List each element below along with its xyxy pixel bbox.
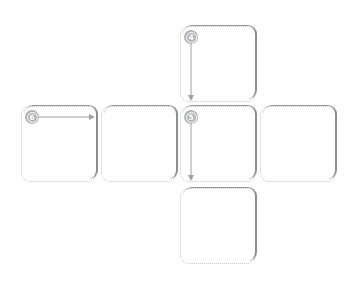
step-badge-6: 6 xyxy=(26,111,38,123)
cube-face-center-left xyxy=(101,106,177,182)
arrow-down-icon xyxy=(186,43,196,103)
step-badge-4: 4 xyxy=(185,31,197,43)
cube-face-center: 5 xyxy=(180,106,256,182)
arrow-down-icon xyxy=(186,123,196,183)
step-badge-5: 5 xyxy=(185,111,197,123)
arrow-right-icon xyxy=(38,112,98,122)
cube-face-top: 4 xyxy=(180,26,256,102)
cube-face-left: 6 xyxy=(21,106,97,182)
cube-face-bottom xyxy=(180,188,256,264)
cube-face-right xyxy=(260,106,336,182)
